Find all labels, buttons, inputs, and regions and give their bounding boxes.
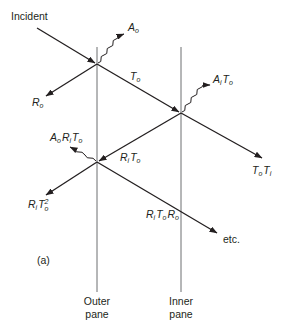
transmitted-total-label: ToTi <box>252 164 272 177</box>
incident-label: Incident <box>11 10 48 22</box>
absorbed-outer-wave <box>98 34 124 63</box>
inner-pane-label-1: Inner <box>169 295 193 307</box>
reflected-outer-ray <box>46 64 97 96</box>
absorbed-inner-wave <box>182 85 210 112</box>
second-pass-ray <box>97 162 217 233</box>
inner-pane-label-2: pane <box>169 308 193 320</box>
transmitted-outer-ray <box>97 64 179 112</box>
reflected-outer-label: Ro <box>32 96 44 109</box>
reflected-out-label: RiT2o <box>28 198 49 212</box>
outer-pane-label-1: Outer <box>84 295 111 307</box>
second-pass-label: RiToRo <box>146 208 179 221</box>
outer-pane-label-2: pane <box>85 308 109 320</box>
panel-marker: (a) <box>37 254 50 266</box>
reflected-out-ray <box>46 162 97 195</box>
transmitted-outer-label: To <box>130 70 140 83</box>
glazing-diagram: Incident Ao To Ro AiTo ToTi RiTo AoRiTo … <box>0 0 285 332</box>
reflected-inner-label: RiTo <box>120 151 141 164</box>
etc-label: etc. <box>223 233 240 245</box>
absorbed-outer-2-label: AoRiTo <box>49 131 83 144</box>
transmitted-total-ray <box>181 113 262 158</box>
incident-ray <box>37 28 95 63</box>
absorbed-outer-label: Ao <box>127 21 139 34</box>
reflected-inner-ray <box>99 113 181 161</box>
absorbed-outer-2-wave <box>70 147 96 161</box>
absorbed-inner-label: AiTo <box>212 73 233 86</box>
